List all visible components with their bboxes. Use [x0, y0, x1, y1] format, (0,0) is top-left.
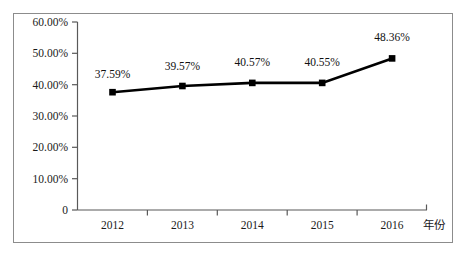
data-label-2014: 40.57%	[216, 57, 288, 69]
data-point-marker	[109, 89, 116, 96]
x-axis-title: 年份	[423, 220, 445, 232]
data-point-marker	[319, 80, 326, 87]
data-label-2015: 40.55%	[286, 57, 358, 69]
y-tick-label-40: 40.00%	[14, 80, 68, 92]
data-label-2012: 37.59%	[77, 69, 149, 81]
data-label-2013: 39.57%	[146, 61, 218, 73]
y-tick-label-10: 10.00%	[14, 174, 68, 186]
x-tick-label-2014: 2014	[224, 220, 280, 232]
x-tick-label-2012: 2012	[85, 220, 141, 232]
data-label-2016: 48.36%	[356, 32, 428, 44]
y-tick-label-20: 20.00%	[14, 142, 68, 154]
y-tick-label-30: 30.00%	[14, 111, 68, 123]
line-chart-plot	[14, 14, 452, 242]
y-axis-ticks	[72, 22, 78, 210]
chart-border-frame: 60.00% 50.00% 40.00% 30.00% 20.00% 10.00…	[13, 13, 453, 243]
chart-figure: 60.00% 50.00% 40.00% 30.00% 20.00% 10.00…	[0, 0, 463, 257]
x-tick-label-2016: 2016	[364, 220, 420, 232]
y-tick-label-0: 0	[14, 205, 68, 217]
x-tick-label-2015: 2015	[294, 220, 350, 232]
y-tick-label-50: 50.00%	[14, 48, 68, 60]
data-point-marker	[389, 55, 396, 62]
data-point-marker	[249, 80, 256, 87]
data-point-marker	[179, 83, 186, 90]
x-axis-ticks	[147, 210, 357, 216]
x-tick-label-2013: 2013	[154, 220, 210, 232]
y-tick-label-60: 60.00%	[14, 17, 68, 29]
